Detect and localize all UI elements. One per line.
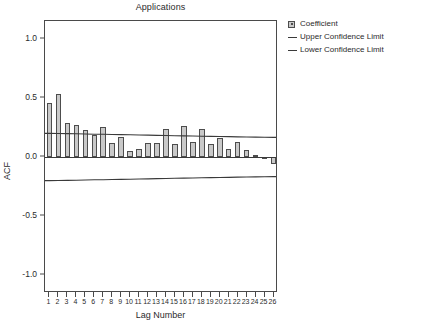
x-tick-mark [165,292,166,297]
chart-legend: CoefficientUpper Confidence LimitLower C… [288,18,384,57]
x-tick-label: 9 [118,298,122,305]
x-tick-mark [147,292,148,297]
x-tick-mark [84,292,85,297]
x-tick-mark [237,292,238,297]
y-tick-label: 0.5 [25,92,37,102]
x-tick-mark [174,292,175,297]
lower-confidence-limit-line [45,21,276,291]
x-tick-label: 21 [224,298,232,305]
x-tick-label: 26 [269,298,277,305]
plot-inner [45,21,276,291]
legend-item-label: Lower Confidence Limit [300,45,384,55]
x-tick-label: 6 [91,298,95,305]
x-tick-label: 3 [64,298,68,305]
x-tick-label: 2 [55,298,59,305]
x-tick-label: 4 [73,298,77,305]
x-tick-label: 23 [242,298,250,305]
x-tick-mark [111,292,112,297]
x-tick-label: 14 [161,298,169,305]
x-tick-label: 17 [188,298,196,305]
x-tick-mark [219,292,220,297]
x-tick-mark [48,292,49,297]
x-tick-mark [57,292,58,297]
y-tick-label: 0.0 [25,151,37,161]
y-tick-label: -1.0 [22,269,37,279]
legend-swatch-box-icon [288,21,295,28]
x-tick-label: 24 [251,298,259,305]
x-tick-label: 7 [100,298,104,305]
x-tick-mark [102,292,103,297]
x-tick-mark [138,292,139,297]
x-tick-label: 18 [197,298,205,305]
x-tick-label: 12 [143,298,151,305]
x-tick-mark [264,292,265,297]
chart-title: Applications [44,2,277,12]
x-tick-mark [156,292,157,297]
x-tick-label: 20 [215,298,223,305]
legend-item-label: Upper Confidence Limit [300,32,384,42]
x-tick-mark [246,292,247,297]
x-tick-mark [201,292,202,297]
x-tick-label: 22 [233,298,241,305]
x-tick-mark [255,292,256,297]
y-axis-label: ACF [2,162,12,180]
x-tick-label: 1 [47,298,51,305]
x-tick-label: 19 [206,298,214,305]
y-tick-label: -0.5 [22,210,37,220]
x-tick-label: 8 [109,298,113,305]
x-tick-mark [120,292,121,297]
x-axis-label: Lag Number [44,310,277,320]
y-tick-label: 1.0 [25,33,37,43]
x-tick-mark [183,292,184,297]
x-tick-label: 13 [152,298,160,305]
x-tick-label: 15 [170,298,178,305]
x-tick-mark [192,292,193,297]
x-tick-mark [93,292,94,297]
x-tick-mark [228,292,229,297]
x-tick-mark [210,292,211,297]
plot-area [44,20,277,292]
x-tick-label: 25 [260,298,268,305]
x-tick-mark [75,292,76,297]
legend-item-label: Coefficient [300,19,338,29]
x-tick-mark [66,292,67,297]
legend-item: Coefficient [288,18,384,30]
x-tick-label: 11 [134,298,141,305]
x-tick-label: 5 [82,298,86,305]
x-tick-mark [129,292,130,297]
legend-item: Lower Confidence Limit [288,44,384,56]
y-axis: ACF 1.00.50.0-0.5-1.0 [0,20,44,292]
legend-item: Upper Confidence Limit [288,31,384,43]
legend-swatch-line-icon [288,50,297,51]
x-tick-mark [273,292,274,297]
zero-reference-line [45,157,276,158]
legend-swatch-line-icon [288,37,297,38]
x-tick-label: 10 [125,298,133,305]
x-tick-label: 16 [179,298,187,305]
acf-chart-figure: Applications ACF 1.00.50.0-0.5-1.0 12345… [0,0,427,331]
